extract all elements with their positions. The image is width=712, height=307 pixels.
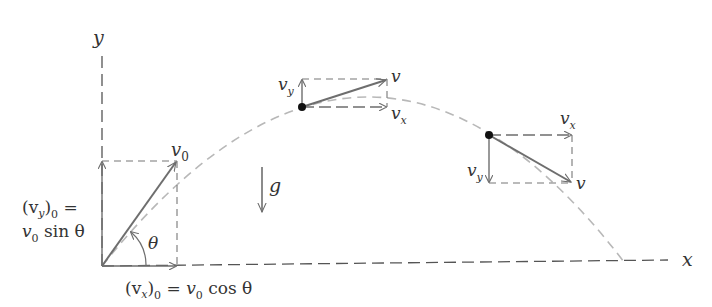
theta-label: θ [148, 233, 158, 253]
rising-point-group: v vx vy [278, 66, 408, 127]
falling-vy-label: vy [467, 160, 484, 184]
rising-point-dot [298, 103, 306, 111]
gravity-label: g [269, 174, 281, 196]
vx0-label: (vx)0 = v0 cos θ [125, 278, 252, 302]
v0-label: v0 [171, 139, 189, 164]
launch-velocity-group: θ v0 (vy)0 = v0 sin θ (vx)0 = v0 cos θ [22, 139, 252, 302]
falling-v-arrow [489, 135, 571, 182]
projectile-diagram: y x θ v0 (vy)0 = v0 sin θ (vx)0 = v0 cos… [0, 0, 712, 307]
falling-vx-label: vx [560, 108, 577, 132]
y-axis-label: y [92, 26, 104, 48]
falling-point-dot [485, 131, 493, 139]
vy0-label-line2: v0 sin θ [22, 221, 85, 245]
gravity-group: g [262, 167, 281, 212]
rising-vx-label: vx [391, 103, 408, 127]
launch-v0-arrow [102, 162, 176, 266]
axes: y x [92, 26, 693, 270]
falling-point-group: v vx vy [467, 108, 586, 193]
rising-v-arrow [302, 80, 386, 107]
vy0-label-line1: (vy)0 = [22, 197, 78, 221]
diagram-canvas: y x θ v0 (vy)0 = v0 sin θ (vx)0 = v0 cos… [0, 0, 712, 307]
rising-vy-label: vy [278, 74, 295, 98]
falling-v-label: v [576, 173, 586, 193]
rising-v-label: v [391, 66, 401, 86]
x-axis [102, 260, 668, 266]
theta-arc-icon [131, 232, 146, 266]
x-axis-label: x [682, 248, 693, 270]
trajectory-curve [102, 97, 624, 266]
